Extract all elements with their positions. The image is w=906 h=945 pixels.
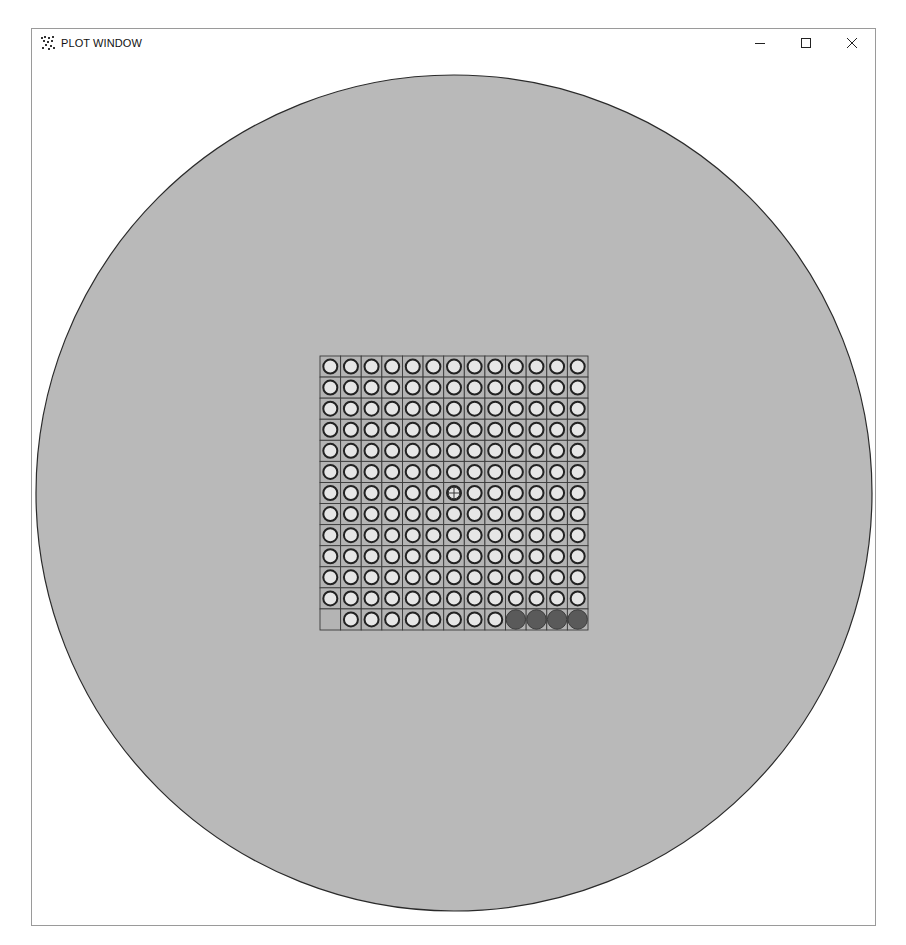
die-cell[interactable] xyxy=(341,567,362,588)
die-cell[interactable] xyxy=(423,440,444,461)
die-cell[interactable] xyxy=(341,356,362,377)
die-cell[interactable] xyxy=(320,440,341,461)
die-cell[interactable] xyxy=(506,398,527,419)
die-cell[interactable] xyxy=(320,482,341,503)
die-cell[interactable] xyxy=(402,546,423,567)
die-cell[interactable] xyxy=(567,440,588,461)
die-cell[interactable] xyxy=(526,504,547,525)
die-cell[interactable] xyxy=(444,377,465,398)
die-cell[interactable] xyxy=(526,609,547,630)
die-cell[interactable] xyxy=(361,419,382,440)
die-cell[interactable] xyxy=(485,398,506,419)
die-cell[interactable] xyxy=(506,419,527,440)
die-cell[interactable] xyxy=(320,504,341,525)
die-cell[interactable] xyxy=(464,482,485,503)
die-cell[interactable] xyxy=(382,398,403,419)
die-cell[interactable] xyxy=(341,440,362,461)
die-cell[interactable] xyxy=(547,461,568,482)
die-cell[interactable] xyxy=(547,482,568,503)
die-cell[interactable] xyxy=(547,525,568,546)
die-cell[interactable] xyxy=(567,461,588,482)
die-cell[interactable] xyxy=(320,609,341,630)
die-cell[interactable] xyxy=(547,419,568,440)
die-cell[interactable] xyxy=(485,546,506,567)
die-cell[interactable] xyxy=(526,525,547,546)
die-cell[interactable] xyxy=(423,398,444,419)
die-cell[interactable] xyxy=(547,504,568,525)
die-cell[interactable] xyxy=(526,482,547,503)
die-cell[interactable] xyxy=(444,440,465,461)
die-cell[interactable] xyxy=(506,525,527,546)
die-cell[interactable] xyxy=(341,398,362,419)
die-cell[interactable] xyxy=(423,377,444,398)
die-cell[interactable] xyxy=(382,525,403,546)
die-cell[interactable] xyxy=(464,588,485,609)
die-cell[interactable] xyxy=(464,377,485,398)
die-cell[interactable] xyxy=(444,398,465,419)
die-cell[interactable] xyxy=(361,546,382,567)
close-button[interactable] xyxy=(829,29,875,57)
die-cell[interactable] xyxy=(361,482,382,503)
die-cell[interactable] xyxy=(506,504,527,525)
die-cell[interactable] xyxy=(485,504,506,525)
die-cell[interactable] xyxy=(320,419,341,440)
die-cell[interactable] xyxy=(382,482,403,503)
die-cell[interactable] xyxy=(361,356,382,377)
die-cell[interactable] xyxy=(382,419,403,440)
die-cell[interactable] xyxy=(506,461,527,482)
die-cell[interactable] xyxy=(506,609,527,630)
die-cell[interactable] xyxy=(341,419,362,440)
die-cell[interactable] xyxy=(320,398,341,419)
die-cell[interactable] xyxy=(423,609,444,630)
die-cell[interactable] xyxy=(382,609,403,630)
die-cell[interactable] xyxy=(320,356,341,377)
die-cell[interactable] xyxy=(382,504,403,525)
die-cell[interactable] xyxy=(341,461,362,482)
die-cell[interactable] xyxy=(506,440,527,461)
die-cell[interactable] xyxy=(423,461,444,482)
die-cell[interactable] xyxy=(382,461,403,482)
die-cell[interactable] xyxy=(423,588,444,609)
die-cell[interactable] xyxy=(444,461,465,482)
die-cell[interactable] xyxy=(485,588,506,609)
die-cell[interactable] xyxy=(341,588,362,609)
die-cell[interactable] xyxy=(361,609,382,630)
die-cell[interactable] xyxy=(506,546,527,567)
die-cell[interactable] xyxy=(361,588,382,609)
die-cell[interactable] xyxy=(567,588,588,609)
die-cell[interactable] xyxy=(567,419,588,440)
die-cell[interactable] xyxy=(547,609,568,630)
die-cell[interactable] xyxy=(567,356,588,377)
die-cell[interactable] xyxy=(402,609,423,630)
die-cell[interactable] xyxy=(444,482,465,503)
die-cell[interactable] xyxy=(567,567,588,588)
die-cell[interactable] xyxy=(506,588,527,609)
die-cell[interactable] xyxy=(464,609,485,630)
die-cell[interactable] xyxy=(526,398,547,419)
die-cell[interactable] xyxy=(361,567,382,588)
die-cell[interactable] xyxy=(423,525,444,546)
die-cell[interactable] xyxy=(526,440,547,461)
die-cell[interactable] xyxy=(485,461,506,482)
die-cell[interactable] xyxy=(423,546,444,567)
die-cell[interactable] xyxy=(526,546,547,567)
die-cell[interactable] xyxy=(444,525,465,546)
die-cell[interactable] xyxy=(320,588,341,609)
die-cell[interactable] xyxy=(485,609,506,630)
die-cell[interactable] xyxy=(526,377,547,398)
die-cell[interactable] xyxy=(567,546,588,567)
die-cell[interactable] xyxy=(423,504,444,525)
die-cell[interactable] xyxy=(464,398,485,419)
die-cell[interactable] xyxy=(567,377,588,398)
die-cell[interactable] xyxy=(341,546,362,567)
die-cell[interactable] xyxy=(361,525,382,546)
die-cell[interactable] xyxy=(444,546,465,567)
die-cell[interactable] xyxy=(402,461,423,482)
die-cell[interactable] xyxy=(485,419,506,440)
die-cell[interactable] xyxy=(423,356,444,377)
die-cell[interactable] xyxy=(485,482,506,503)
wafer-map[interactable] xyxy=(32,57,875,925)
die-cell[interactable] xyxy=(361,440,382,461)
die-cell[interactable] xyxy=(506,356,527,377)
die-cell[interactable] xyxy=(464,356,485,377)
